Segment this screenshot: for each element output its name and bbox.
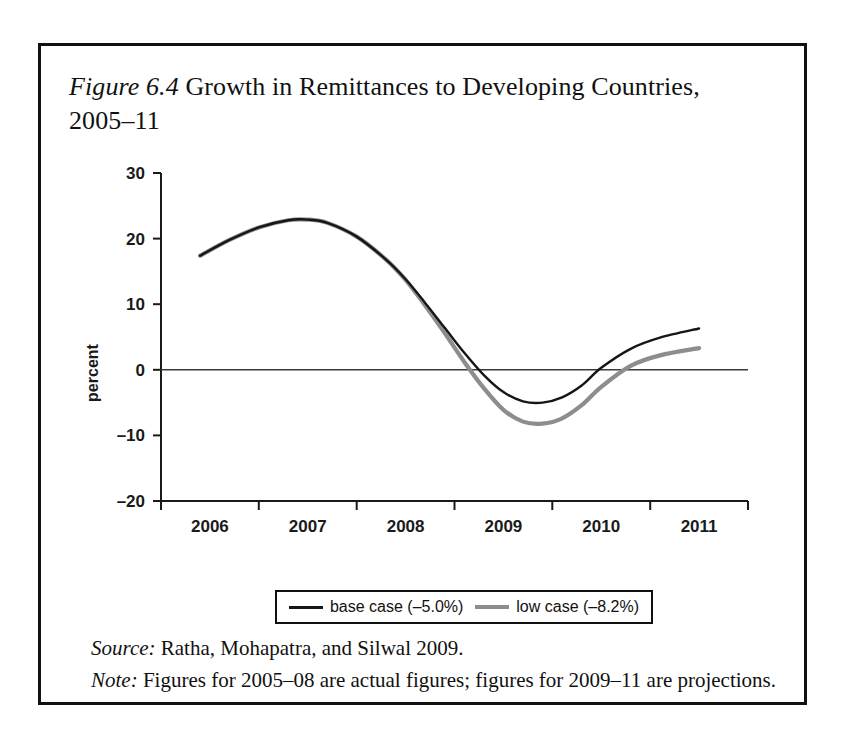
note-text: Figures for 2005–08 are actual figures; … [138, 668, 776, 692]
legend-label-low-case: low case (–8.2%) [516, 598, 639, 616]
figure-number: Figure 6.4 [69, 72, 179, 101]
legend-swatch-base-case [289, 606, 323, 609]
legend-swatch-low-case [475, 605, 509, 609]
x-tick-label-2010: 2010 [582, 517, 620, 536]
y-axis-ticks [153, 173, 161, 501]
y-tick-label-neg20: –20 [117, 492, 145, 511]
figure-title: Figure 6.4 Growth in Remittances to Deve… [69, 70, 769, 138]
series-line-low-case [200, 219, 699, 424]
remittance-growth-line-chart: 30 20 10 0 –10 –20 percent 2006 2007 [41, 151, 810, 551]
y-tick-label-20: 20 [126, 230, 145, 249]
figure-footnotes: Source: Ratha, Mohapatra, and Silwal 200… [69, 634, 781, 698]
x-tick-label-2007: 2007 [289, 517, 327, 536]
series-line-base-case [200, 219, 699, 403]
source-line: Source: Ratha, Mohapatra, and Silwal 200… [69, 634, 781, 664]
legend-label-base-case: base case (–5.0%) [330, 598, 463, 616]
legend-entry-low-case: low case (–8.2%) [475, 598, 639, 616]
x-tick-label-2009: 2009 [484, 517, 522, 536]
note-line: Note: Figures for 2005–08 are actual fig… [69, 666, 781, 696]
x-tick-label-2011: 2011 [681, 517, 718, 536]
x-axis-ticks [161, 501, 748, 510]
chart-legend: base case (–5.0%) low case (–8.2%) [275, 590, 653, 624]
y-tick-label-0: 0 [136, 361, 145, 380]
y-axis-title: percent [84, 343, 101, 401]
x-tick-label-2006: 2006 [191, 517, 229, 536]
note-lead: Note: [91, 668, 138, 692]
figure-frame: Figure 6.4 Growth in Remittances to Deve… [38, 43, 807, 705]
y-tick-label-30: 30 [126, 164, 145, 183]
y-tick-label-neg10: –10 [117, 426, 145, 445]
source-lead: Source: [91, 636, 156, 660]
x-tick-label-2008: 2008 [387, 517, 425, 536]
y-tick-label-10: 10 [126, 295, 145, 314]
chart-plot-area: 30 20 10 0 –10 –20 percent 2006 2007 [41, 151, 810, 551]
source-text: Ratha, Mohapatra, and Silwal 2009. [156, 636, 464, 660]
legend-entry-base-case: base case (–5.0%) [289, 598, 463, 616]
